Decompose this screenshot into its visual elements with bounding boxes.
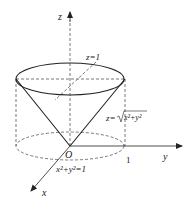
cone-cylinder-diagram: z z=1 z= x²+y² O 1 y x²+y²=1 x <box>0 0 192 208</box>
cone-equation-radicand: x²+y² <box>123 113 142 122</box>
cylinder-equation-label: x²+y²=1 <box>55 164 86 174</box>
cone-equation-prefix: z= <box>105 113 116 123</box>
x-axis-label: x <box>41 187 47 198</box>
cone-left-side <box>16 79 70 146</box>
z-axis-label: z <box>57 11 62 22</box>
y-axis-label: y <box>162 151 168 162</box>
origin-label: O <box>65 149 72 160</box>
plane-label: z=1 <box>85 52 100 62</box>
unit-tick-label: 1 <box>126 155 131 165</box>
cone-equation-label: z= x²+y² <box>105 111 147 123</box>
cone-right-side <box>70 79 125 146</box>
